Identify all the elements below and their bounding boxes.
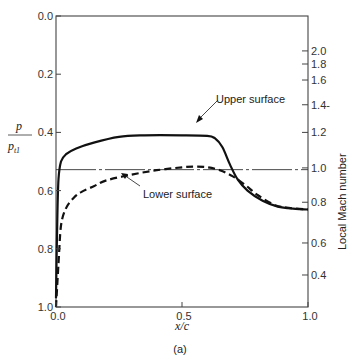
y2-tick-label: 0.4 [311,269,326,281]
annotations: Upper surfaceLower surface [121,93,285,200]
y2-axis-label: Local Mach number [336,153,348,250]
upper-surface-label: Upper surface [216,93,285,105]
plot-border [56,16,308,307]
y2-tick-label: 2.0 [311,45,326,57]
y2-axis-ticks: 2.01.81.61.4-1.21.00.80.60.4 [302,45,330,281]
y-tick-label: 0.8 [38,243,53,255]
y-tick-label: 0.2 [38,68,53,80]
x-axis-label: x/c [174,319,190,333]
y2-tick-label: 1.0 [311,162,326,174]
series-group [56,135,308,307]
lower-surface-label: Lower surface [143,188,212,200]
upper-surface-curve [56,135,308,298]
y-tick-label: 0.0 [38,10,53,22]
y2-tick-label: 1.8 [311,58,326,70]
y2-tick-label: 1.4- [311,99,330,111]
y-tick-label: 0.4 [38,126,53,138]
x-tick-label: 0.0 [50,310,65,322]
y2-tick-label: 1.2 [311,126,326,138]
y2-tick-label: 1.6 [311,74,326,86]
x-tick-label: 1.0 [302,310,317,322]
y2-tick-label: 0.6 [311,237,326,249]
figure-caption: (a) [173,343,186,355]
chart: 0.00.20.40.60.81.0 2.01.81.61.4-1.21.00.… [0,0,351,360]
y-tick-label: 0.6 [38,185,53,197]
y-label-denominator: pt1 [7,139,20,155]
y2-tick-label: 0.8 [311,196,326,208]
plot-frame [56,16,308,307]
y-axis-label: p pt1 [7,119,32,155]
y-label-numerator: p [15,119,22,133]
